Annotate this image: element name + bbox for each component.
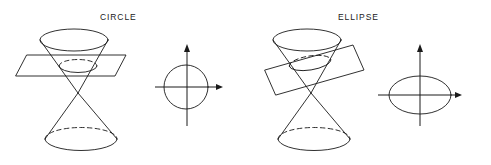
ellipse-panel-label: ELLIPSE [338,12,379,22]
circle-cone-base-back-arc [45,128,117,139]
circle-axes-y-arrowhead [184,44,190,52]
ellipse-panel-group [265,29,462,151]
ellipse-cone-lower-right-slant [311,93,350,139]
circle-cutting-plane [16,55,126,76]
circle-cone-upper-right-slant [78,40,108,93]
ellipse-cone-lower-left-slant [278,93,311,139]
ellipse-section-group [288,53,332,73]
ellipse-axes-x-arrowhead [455,92,462,98]
circle-cone-base-front-arc [45,139,117,151]
ellipse-cone-upper-rim [273,29,341,51]
circle-cone-upper-rim [40,29,108,51]
conic-sections-figure: CIRCLE ELLIPSE [0,0,491,165]
circle-section-back-arc [59,60,97,66]
ellipse-cone-base-front-arc [278,139,350,151]
conic-sections-drawing [0,0,491,165]
circle-cone-lower-left-slant [45,93,78,139]
ellipse-cone-upper-right-slant [311,40,341,93]
circle-cone-lower-right-slant [78,93,117,139]
circle-panel-label: CIRCLE [100,12,137,22]
ellipse-cone-base-back-arc [278,128,350,139]
circle-axes-x-arrowhead [216,84,223,90]
ellipse-axes-y-arrowhead [417,44,423,52]
circle-panel-group [16,29,223,151]
ellipse-section-back-arc [288,53,331,66]
